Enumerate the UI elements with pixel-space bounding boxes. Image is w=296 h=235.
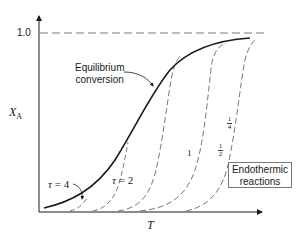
- tau-2-label: τ = 2: [112, 174, 133, 186]
- equilibrium-pointer: [124, 72, 153, 86]
- x-axis-label: T: [147, 218, 154, 233]
- tau-4-value: = 4: [52, 178, 69, 190]
- tau-1-curve: [118, 55, 181, 211]
- endothermic-label-line2: reactions: [229, 176, 291, 188]
- y-tick-1-0: 1.0: [17, 27, 31, 38]
- tau-1-label: 1: [187, 148, 192, 158]
- tau-half-numerator: 1: [218, 143, 223, 150]
- equilibrium-label-line2: conversion: [75, 74, 124, 86]
- tau-4-label: τ = 4: [48, 178, 69, 190]
- tau-half-curve: [140, 43, 226, 211]
- y-axis-label-subscript: A: [16, 112, 22, 121]
- equilibrium-conversion-label: Equilibrium conversion: [75, 62, 124, 86]
- y-axis-label: XA: [9, 105, 22, 121]
- tau-quarter-label: 1 4: [227, 116, 232, 131]
- tau-2-value: = 2: [116, 174, 133, 186]
- endothermic-label-line1: Endothermic: [229, 164, 291, 176]
- conversion-temperature-diagram: [0, 0, 296, 235]
- tau-quarter-numerator: 1: [227, 116, 232, 123]
- tau-quarter-denominator: 4: [227, 124, 232, 131]
- tau-half-denominator: 2: [218, 151, 223, 158]
- equilibrium-label-line1: Equilibrium: [75, 62, 124, 74]
- tau-half-label: 1 2: [218, 143, 223, 158]
- endothermic-reactions-box: Endothermic reactions: [228, 162, 292, 188]
